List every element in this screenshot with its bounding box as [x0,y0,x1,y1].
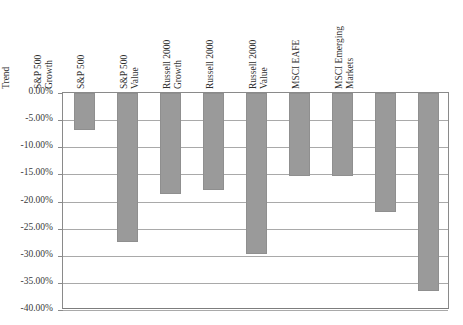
y-axis-tick [58,120,63,121]
bar [246,93,267,254]
category-label-line: Russell 2000 [205,40,216,89]
y-axis-tick-label: -15.00% [0,168,53,178]
bar [160,93,181,194]
y-axis-tick-label: -40.00% [0,304,53,314]
bar [74,93,95,130]
gridline [63,283,448,284]
y-axis-tick-label: -10.00% [0,141,53,151]
bar [289,93,310,176]
category-label-line: Russell 2000 [248,40,259,89]
y-axis-tick [58,147,63,148]
x-axis-category-label: MSCI EmergingMarkets [334,26,423,89]
category-label-line: MSCI EAFE [291,40,302,89]
category-label-line: Russell 2000 [162,40,173,89]
category-label-line: Value [258,40,269,89]
y-axis-tick-label: -5.00% [0,114,53,124]
clipped-header-text [6,0,236,4]
bar [203,93,224,190]
y-axis-tick [58,229,63,230]
gridline [63,310,448,311]
y-axis-tick [58,310,63,311]
category-label-line: Trend [0,31,11,89]
bar [375,93,396,212]
y-axis-tick [58,202,63,203]
y-axis-tick-label: -25.00% [0,223,53,233]
category-label-line: S&P 500 [119,55,130,89]
category-label-line: Markets [344,26,355,89]
y-axis-tick-label: -30.00% [0,250,53,260]
category-label-line: MSCI Emerging [334,26,345,89]
category-label-line: Growth [43,55,54,89]
plot-area [62,92,449,309]
bar [332,93,353,176]
bar [418,93,439,291]
y-axis-tick [58,256,63,257]
category-label-line: Value [129,55,140,89]
bar-chart: 0.00%-5.00%-10.00%-15.00%-20.00%-25.00%-… [0,0,463,325]
y-axis-tick [58,93,63,94]
y-axis-tick [58,174,63,175]
gridline [63,256,448,257]
bar [117,93,138,242]
y-axis-tick-label: -20.00% [0,196,53,206]
y-axis-tick [58,283,63,284]
category-label-line: Growth [172,40,183,89]
category-label-line: S&P 500 [33,55,44,89]
category-label-line: S&P 500 [76,55,87,89]
y-axis-tick-label: -35.00% [0,277,53,287]
